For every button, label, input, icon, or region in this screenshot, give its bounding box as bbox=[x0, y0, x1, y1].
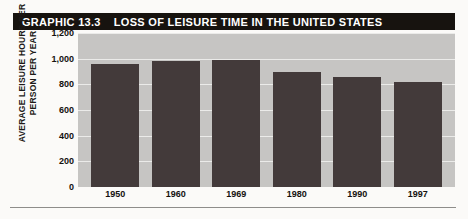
y-axis-title-line-1: AVERAGE LEISURE HOURS PER bbox=[17, 0, 28, 153]
bar-series bbox=[78, 33, 455, 187]
x-axis-tick-label: 1990 bbox=[327, 189, 388, 199]
y-axis-tick-label: 400 bbox=[34, 131, 74, 141]
bar-1980 bbox=[273, 72, 321, 187]
bar-slot bbox=[85, 33, 146, 187]
x-axis-tick-label: 1960 bbox=[146, 189, 207, 199]
y-axis-tick-label: 600 bbox=[34, 105, 74, 115]
bar-slot bbox=[206, 33, 267, 187]
bar-1960 bbox=[152, 61, 200, 187]
bottom-rule bbox=[10, 207, 456, 208]
x-axis-ticks: 195019601969198019901997 bbox=[78, 189, 455, 199]
graphic-title: LOSS OF LEISURE TIME IN THE UNITED STATE… bbox=[101, 16, 383, 28]
graphic-title-bar: GRAPHIC 13.3 LOSS OF LEISURE TIME IN THE… bbox=[13, 13, 455, 30]
bar-1997 bbox=[394, 82, 442, 187]
y-axis-tick-label: 800 bbox=[34, 79, 74, 89]
figure: GRAPHIC 13.3 LOSS OF LEISURE TIME IN THE… bbox=[0, 0, 468, 219]
x-axis-tick-label: 1980 bbox=[267, 189, 328, 199]
x-axis-tick-label: 1997 bbox=[388, 189, 449, 199]
bar-1950 bbox=[91, 64, 139, 187]
plot-area bbox=[78, 33, 455, 187]
y-axis-tick-label: 1,200 bbox=[34, 28, 74, 38]
bar-1990 bbox=[333, 77, 381, 187]
y-axis-tick-label: 0 bbox=[34, 182, 74, 192]
bar-slot bbox=[327, 33, 388, 187]
bar-slot bbox=[388, 33, 449, 187]
y-axis-tick-label: 200 bbox=[34, 156, 74, 166]
y-axis-ticks: 1,2001,0008006004002000 bbox=[30, 33, 74, 187]
x-axis-tick-label: 1950 bbox=[85, 189, 146, 199]
x-axis-tick-label: 1969 bbox=[206, 189, 267, 199]
bar-1969 bbox=[212, 60, 260, 187]
bar-slot bbox=[267, 33, 328, 187]
bar-slot bbox=[146, 33, 207, 187]
y-axis-tick-label: 1,000 bbox=[34, 54, 74, 64]
